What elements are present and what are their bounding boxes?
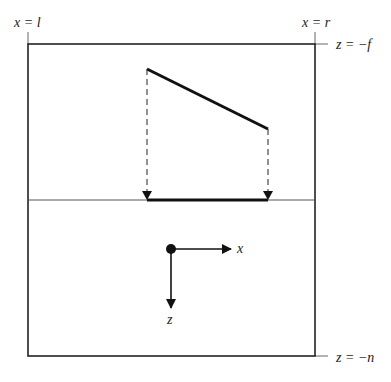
projection-diagram: x = l x = r z = −f z = −n x z	[0, 0, 391, 382]
z-axis-label: z	[166, 312, 173, 327]
x-axis-label: x	[236, 241, 244, 256]
left-plane-label: x = l	[13, 15, 41, 30]
near-plane-label: z = −n	[335, 350, 374, 365]
far-plane-label: z = −f	[335, 37, 373, 52]
right-plane-label: x = r	[301, 15, 331, 30]
object-segment	[147, 69, 268, 129]
